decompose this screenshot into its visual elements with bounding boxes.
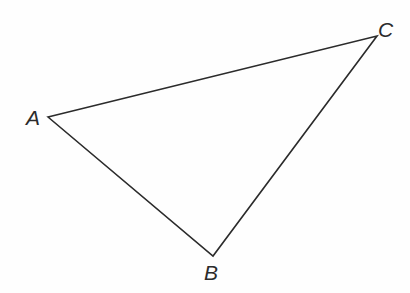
triangle-figure (0, 0, 410, 293)
vertex-label-a: A (26, 107, 40, 128)
triangle-outline (48, 36, 377, 256)
vertex-label-c: C (378, 19, 393, 40)
vertex-label-b: B (204, 262, 218, 283)
diagram-canvas: A B C (0, 0, 410, 293)
